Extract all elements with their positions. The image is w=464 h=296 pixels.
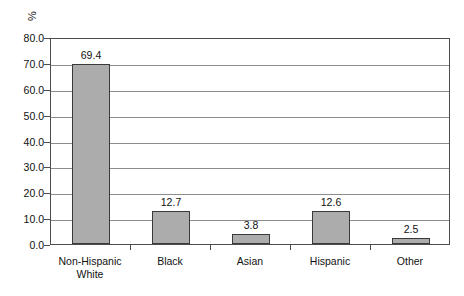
bar — [232, 234, 270, 244]
x-axis-tick-mark — [210, 245, 211, 250]
y-axis-tick-marks — [0, 38, 50, 245]
bar-value-label: 12.6 — [301, 197, 361, 208]
x-axis-tick-marks — [50, 245, 450, 251]
x-axis-tick-label: Hispanic — [290, 255, 370, 268]
gridline — [51, 194, 449, 195]
bar — [312, 211, 350, 244]
x-axis-tick-label: Asian — [210, 255, 290, 268]
y-axis-unit-label: % — [22, 6, 42, 26]
bar-value-label: 2.5 — [381, 224, 441, 235]
bar — [392, 238, 430, 244]
x-axis-tick-labels: Non-HispanicWhiteBlackAsianHispanicOther — [50, 255, 450, 291]
bar-value-label: 69.4 — [61, 50, 121, 61]
x-axis-tick-mark — [290, 245, 291, 250]
x-axis-tick-mark — [130, 245, 131, 250]
bar — [152, 211, 190, 244]
x-axis-tick-label: Non-HispanicWhite — [50, 255, 130, 281]
bar-chart: % 80.070.060.050.040.030.020.010.00.0 69… — [0, 0, 464, 296]
gridline — [51, 91, 449, 92]
plot-area: 69.412.73.812.62.5 — [50, 38, 450, 245]
gridline — [51, 168, 449, 169]
x-axis-tick-label-line: Black — [130, 255, 210, 268]
x-axis-tick-label: Black — [130, 255, 210, 268]
x-axis-tick-label-line: Non-Hispanic — [50, 255, 130, 268]
bar-value-label: 12.7 — [141, 197, 201, 208]
gridline — [51, 117, 449, 118]
x-axis-tick-mark — [370, 245, 371, 250]
x-axis-tick-label-line: Hispanic — [290, 255, 370, 268]
x-axis-tick-label: Other — [370, 255, 450, 268]
gridline — [51, 65, 449, 66]
x-axis-tick-label-line: Other — [370, 255, 450, 268]
bar-value-label: 3.8 — [221, 220, 281, 231]
bar — [72, 64, 110, 244]
gridline — [51, 143, 449, 144]
x-axis-tick-label-line: White — [50, 268, 130, 281]
x-axis-tick-label-line: Asian — [210, 255, 290, 268]
